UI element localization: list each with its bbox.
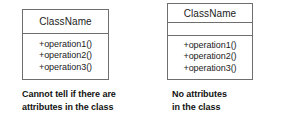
operations-compartment-right: +operation1() +operation2() +operation3(… <box>168 35 252 79</box>
caption-left: Cannot tell if there are attributes in t… <box>22 88 116 113</box>
caption-right-line-1: No attributes <box>172 88 227 101</box>
uml-class-box-right[interactable]: ClassName +operation1() +operation2() +o… <box>167 3 253 80</box>
operation-row: +operation3() <box>23 62 108 74</box>
caption-left-line-1: Cannot tell if there are <box>22 88 116 101</box>
attributes-compartment-right <box>168 22 252 35</box>
operation-row: +operation2() <box>23 50 108 62</box>
uml-class-box-left[interactable]: ClassName +operation1() +operation2() +o… <box>22 9 109 80</box>
class-name-compartment-right: ClassName <box>168 4 252 22</box>
caption-right-line-2: in the class <box>172 101 227 114</box>
operation-row: +operation1() <box>23 39 108 51</box>
diagram-canvas: ClassName +operation1() +operation2() +o… <box>0 0 285 124</box>
class-name-compartment-left: ClassName <box>23 10 108 33</box>
class-name-label-right: ClassName <box>168 8 252 19</box>
operation-row: +operation2() <box>168 51 252 63</box>
class-name-label-left: ClassName <box>23 16 108 27</box>
operation-row: +operation1() <box>168 40 252 52</box>
caption-left-line-2: attributes in the class <box>22 101 116 114</box>
operation-row: +operation3() <box>168 63 252 75</box>
caption-right: No attributes in the class <box>172 88 227 113</box>
operations-compartment-left: +operation1() +operation2() +operation3(… <box>23 33 108 79</box>
